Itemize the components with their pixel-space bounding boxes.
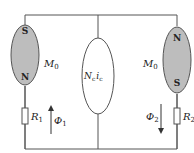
left-flux-label: Φ1 bbox=[54, 115, 67, 128]
left-resistor bbox=[22, 108, 28, 124]
right-magnet-bottom-pole: S bbox=[174, 78, 181, 88]
right-resistor-label: R2 bbox=[182, 111, 194, 124]
left-magnet-label: M0 bbox=[43, 58, 59, 71]
left-magnet-top-pole: S bbox=[22, 26, 29, 36]
center-mmf-source: Ncic bbox=[82, 38, 114, 114]
right-flux-label: Φ2 bbox=[146, 111, 159, 124]
left-resistor-label: R1 bbox=[30, 111, 43, 124]
left-magnet: S N bbox=[11, 25, 39, 85]
right-magnet-label: M0 bbox=[142, 58, 158, 71]
left-magnet-bottom-pole: N bbox=[21, 72, 29, 82]
right-magnet: N S bbox=[163, 27, 191, 93]
right-magnet-top-pole: N bbox=[173, 33, 181, 43]
right-resistor bbox=[174, 108, 180, 124]
magnetic-circuit-diagram: S N M0 Ncic N S M0 R1 R2 Φ1 Φ2 bbox=[0, 0, 194, 153]
